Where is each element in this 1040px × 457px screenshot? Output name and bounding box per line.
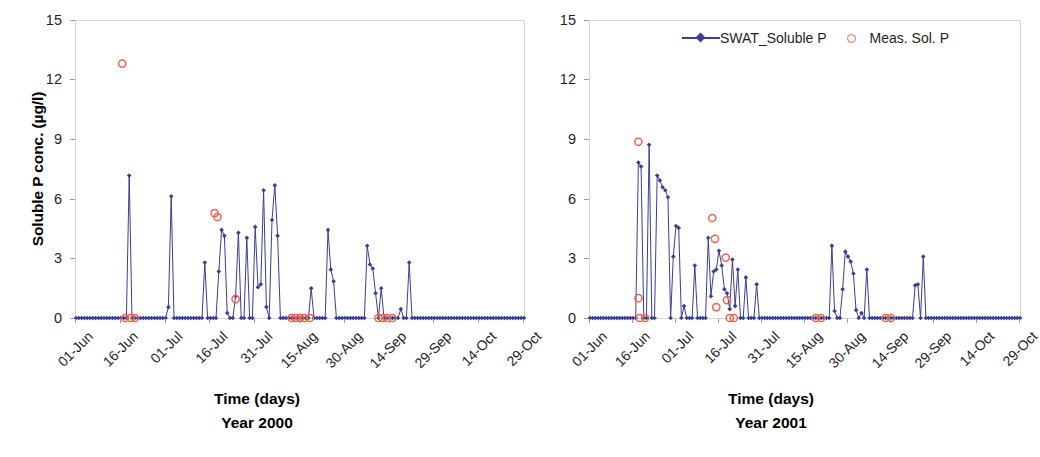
- measured-data-point: [722, 254, 729, 261]
- simulated-data-point: [275, 234, 280, 239]
- y-tick-label: 9: [28, 132, 62, 147]
- x-tickmark: [254, 319, 255, 323]
- series-canvas-year-2001: [590, 21, 1022, 320]
- panel-year-label: Year 2001: [514, 414, 1028, 432]
- simulated-data-point: [365, 243, 370, 248]
- plot-area-year-2000: [75, 20, 525, 319]
- x-tickmark: [389, 319, 390, 323]
- y-tick-label: 9: [542, 132, 576, 147]
- x-tickmark: [761, 319, 762, 323]
- simulated-data-point: [231, 316, 236, 321]
- y-tick-label: 0: [542, 311, 576, 326]
- simulated-data-point: [169, 194, 174, 199]
- simulated-data-point: [261, 188, 266, 193]
- x-tickmark: [120, 319, 121, 323]
- simulated-data-point: [309, 286, 314, 291]
- chart-legend: SWAT_Soluble P Meas. Sol. P: [682, 30, 949, 46]
- simulated-data-point: [668, 316, 673, 321]
- simulated-data-point: [709, 294, 714, 299]
- simulated-data-point: [671, 254, 676, 259]
- x-tickmark: [675, 319, 676, 323]
- x-tickmark: [433, 319, 434, 323]
- measured-data-point: [711, 235, 718, 242]
- x-tick-label: 16-Jul: [192, 328, 230, 366]
- simulated-data-point: [846, 254, 851, 259]
- simulated-data-point: [219, 228, 224, 233]
- x-tick-label: 01-Jun: [55, 328, 97, 370]
- panel-year-label: Year 2000: [0, 414, 514, 432]
- series-canvas-year-2000: [76, 21, 526, 320]
- legend-item-measured[interactable]: Meas. Sol. P: [847, 30, 949, 46]
- x-tick-label: 14-Sep: [367, 328, 410, 371]
- x-tickmark: [478, 319, 479, 323]
- x-tickmark: [890, 319, 891, 323]
- simulated-data-point: [253, 225, 258, 230]
- x-tickmark: [165, 319, 166, 323]
- simulated-data-point: [242, 316, 247, 321]
- simulated-data-point: [217, 269, 222, 274]
- x-tick-label: 01-Jul: [658, 328, 696, 366]
- simulated-data-point: [273, 183, 278, 188]
- simulated-data-point: [404, 316, 409, 321]
- simulated-data-point: [840, 287, 845, 292]
- simulated-data-point: [706, 236, 711, 241]
- x-tick-label: 01-Jul: [148, 328, 186, 366]
- x-tickmark: [804, 319, 805, 323]
- simulated-data-point: [326, 228, 331, 233]
- x-tick-label: 15-Aug: [277, 328, 320, 371]
- simulated-data-point: [658, 178, 663, 183]
- simulated-data-point: [682, 304, 687, 309]
- simulated-data-point: [733, 304, 738, 309]
- x-axis-title: Time (days): [514, 390, 1028, 408]
- simulated-data-point: [331, 279, 336, 284]
- simulated-data-point: [693, 263, 698, 268]
- x-tick-label: 29-Sep: [411, 328, 454, 371]
- simulated-data-point: [719, 263, 724, 268]
- simulated-data-point: [652, 316, 657, 321]
- y-tick-label: 15: [28, 13, 62, 28]
- simulated-data-point: [647, 142, 652, 147]
- x-tick-label: 14-Sep: [868, 328, 911, 371]
- x-tick-label: 14-Oct: [956, 328, 997, 369]
- simulated-data-point: [730, 257, 735, 262]
- simulated-data-point: [848, 259, 853, 264]
- x-tick-label: 16-Jul: [701, 328, 739, 366]
- simulated-data-point: [655, 173, 660, 178]
- simulated-data-point: [832, 309, 837, 314]
- simulated-data-point: [166, 305, 171, 310]
- x-tick-label: 16-Jun: [612, 328, 654, 370]
- simulated-data-point: [827, 316, 832, 321]
- simulated-data-point: [754, 282, 759, 287]
- y-tick-label: 3: [28, 251, 62, 266]
- x-tickmark: [299, 319, 300, 323]
- x-tick-label: 01-Jun: [569, 328, 611, 370]
- legend-item-simulated[interactable]: SWAT_Soluble P: [682, 30, 847, 46]
- simulated-data-point: [236, 231, 241, 236]
- simulated-data-point: [666, 195, 671, 200]
- simulated-data-point: [830, 243, 835, 248]
- simulated-data-point: [843, 249, 848, 254]
- open-circle-icon: [847, 34, 856, 43]
- simulated-data-point: [270, 218, 275, 223]
- simulated-data-point: [214, 316, 219, 321]
- simulated-data-point: [267, 316, 272, 321]
- simulated-data-point: [744, 275, 749, 280]
- simulated-data-point: [910, 316, 915, 321]
- chart-panel-year-2000: Soluble P conc. (µg/l) 15 12 9 6 3 0 01-…: [0, 0, 514, 457]
- simulated-data-point: [856, 316, 861, 321]
- simulated-data-point: [717, 248, 722, 253]
- x-tickmark: [632, 319, 633, 323]
- measured-data-point: [713, 304, 720, 311]
- simulated-data-point: [838, 316, 843, 321]
- simulated-data-point: [222, 234, 227, 239]
- x-tick-label: 15-Aug: [782, 328, 825, 371]
- simulated-data-point: [679, 316, 684, 321]
- measured-data-point: [709, 214, 716, 221]
- simulated-data-point: [703, 316, 708, 321]
- simulated-data-point: [851, 271, 856, 276]
- line-marker-icon: [682, 31, 720, 45]
- x-tickmark: [933, 319, 934, 323]
- x-tickmark: [589, 319, 590, 323]
- y-tick-label: 0: [28, 311, 62, 326]
- x-tickmark: [75, 319, 76, 323]
